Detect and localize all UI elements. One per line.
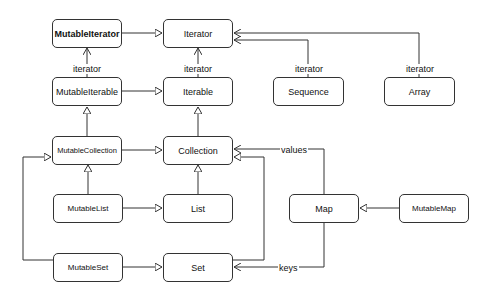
node-mutable-collection: MutableCollection (52, 136, 122, 165)
node-map: Map (289, 194, 359, 223)
node-iterator: Iterator (163, 19, 233, 48)
node-set: Set (163, 253, 233, 282)
node-collection: Collection (163, 136, 233, 165)
edge-label-mutable-iterable-iterator: iterator (72, 64, 102, 74)
node-array: Array (384, 77, 455, 106)
edge-label-sequence-iterator: iterator (294, 64, 324, 74)
edge-label-keys: keys (278, 263, 299, 273)
node-mutable-set: MutableSet (53, 253, 123, 282)
node-list: List (163, 194, 233, 223)
node-sequence: Sequence (273, 77, 344, 106)
node-mutable-map: MutableMap (399, 194, 469, 223)
node-iterable: Iterable (163, 77, 233, 106)
edge-label-array-iterator: iterator (405, 64, 435, 74)
node-mutable-iterable: MutableIterable (52, 77, 122, 106)
node-mutable-list: MutableList (53, 194, 123, 223)
node-mutable-iterator: MutableIterator (52, 19, 122, 48)
edge-label-iterable-iterator: iterator (183, 64, 213, 74)
edge-label-values: values (280, 145, 308, 155)
